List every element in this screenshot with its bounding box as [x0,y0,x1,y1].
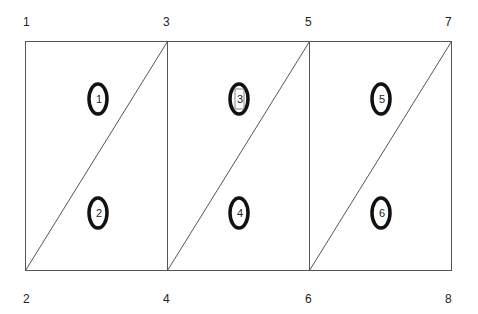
diagonal-line [168,42,310,271]
mesh-diagram: 123456 [0,0,478,314]
node-label: 5 [305,15,312,29]
node-label: 7 [445,15,452,29]
element-marker: 5 [372,84,390,114]
node-label: 8 [445,292,452,306]
element-label: 6 [379,207,385,219]
element-label: 5 [379,93,385,105]
element-marker: 1 [89,84,107,114]
diagonal-line [310,42,452,271]
element-label: 4 [237,207,243,219]
mesh-lines [26,42,452,271]
node-label: 3 [163,15,170,29]
element-markers: 123456 [89,84,390,228]
node-label: 2 [23,292,30,306]
diagonal-line [26,42,168,271]
element-label: 2 [96,207,102,219]
node-label: 4 [163,292,170,306]
node-label: 6 [305,292,312,306]
element-marker: 4 [230,198,248,228]
node-label: 1 [23,15,30,29]
element-label: 1 [96,93,102,105]
element-marker: 6 [372,198,390,228]
element-label: 3 [237,93,243,105]
element-marker: 3 [230,84,248,114]
element-marker: 2 [89,198,107,228]
